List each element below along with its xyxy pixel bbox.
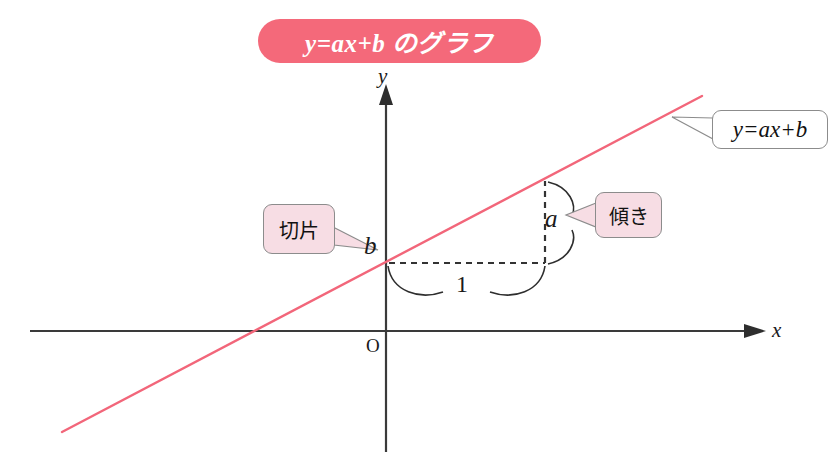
graph-vector-layer [0,0,833,473]
rise-value-label: a [545,206,558,231]
y-axis-label: y [378,66,387,87]
callout-slope-label: 傾き [609,201,649,230]
diagram-canvas: y=ax+b のグラフ [0,0,833,473]
callout-intercept[interactable]: 切片 [263,204,335,254]
graph-line [62,96,702,432]
x-axis [30,324,766,338]
callout-intercept-label: 切片 [279,215,319,244]
y-axis [379,84,393,452]
callout-slope[interactable]: 傾き [595,192,662,238]
origin-label: O [366,336,380,355]
slope-callout-tail [566,203,596,227]
callout-equation-label: y=ax+b [733,117,807,143]
callout-equation[interactable]: y=ax+b [712,110,828,149]
intercept-value-label: b [364,233,377,258]
x-axis-label: x [772,320,781,341]
run-value-label: 1 [456,272,468,296]
equation-callout-tail [672,117,713,139]
